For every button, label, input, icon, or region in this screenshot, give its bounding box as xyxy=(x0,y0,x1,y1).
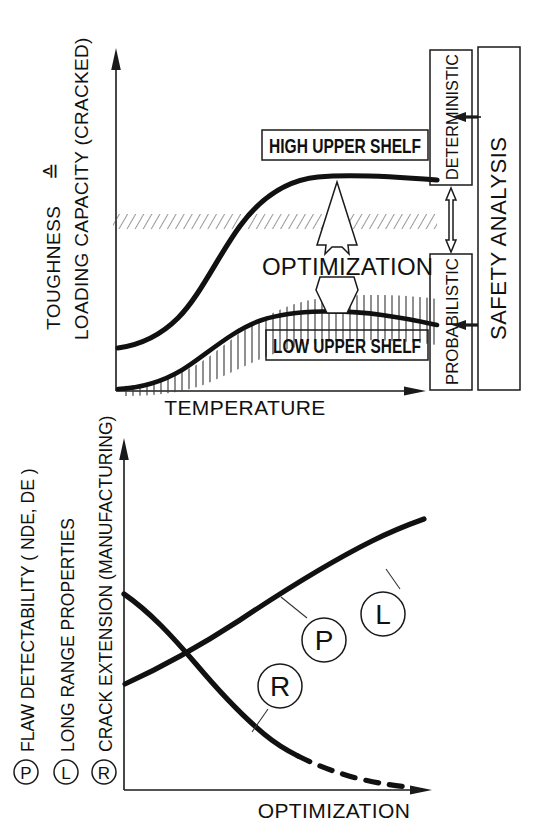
high-upper-shelf-label: HIGH UPPER SHELF xyxy=(262,130,428,160)
bottom-x-axis-arrowhead xyxy=(410,785,432,794)
y-axis-label-line2: LOADING CAPACITY (CRACKED) xyxy=(71,37,92,340)
figure-root: TOUGHNESS ≙ LOADING CAPACITY (CRACKED) xyxy=(0,0,538,837)
top-x-axis-arrowhead xyxy=(404,386,426,395)
curve-marker-L: L xyxy=(361,569,405,636)
bottom-chart-legend: P FLAW DETECTABILITY ( NDE, DE ) L LONG … xyxy=(14,416,116,784)
acceptance-band-hatch xyxy=(113,214,437,229)
legend-item-P: P FLAW DETECTABILITY ( NDE, DE ) xyxy=(14,468,38,784)
high-upper-shelf-text: HIGH UPPER SHELF xyxy=(269,135,421,157)
legend-key-R: R xyxy=(98,764,110,783)
bottom-chart: P FLAW DETECTABILITY ( NDE, DE ) L LONG … xyxy=(14,416,432,822)
legend-text-L: LONG RANGE PROPERTIES xyxy=(58,518,78,752)
marker-label-L: L xyxy=(375,599,391,630)
top-chart: TOUGHNESS ≙ LOADING CAPACITY (CRACKED) xyxy=(41,37,520,419)
acceptance-band xyxy=(113,214,437,229)
probabilistic-label: PROBABILISTIC xyxy=(443,258,462,385)
legend-item-L: L LONG RANGE PROPERTIES xyxy=(54,518,78,784)
legend-item-R: R CRACK EXTENSION (MANUFACTURING) xyxy=(92,416,116,784)
optimization-label: OPTIMIZATION xyxy=(262,253,433,280)
curve-marker-P: P xyxy=(281,597,346,662)
deterministic-probabilistic-link-arrow xyxy=(446,188,456,252)
y-axis-corresponds-symbol: ≙ xyxy=(41,162,64,180)
leader-line-P xyxy=(281,597,307,618)
leader-line-L xyxy=(386,569,400,589)
low-upper-shelf-text: LOW UPPER SHELF xyxy=(273,335,421,357)
low-upper-shelf-label: LOW UPPER SHELF xyxy=(266,330,428,360)
top-chart-x-axis-label: TEMPERATURE xyxy=(164,396,326,419)
curve-marker-R: R xyxy=(252,664,302,732)
optimization-arrow xyxy=(316,182,358,313)
legend-key-P: P xyxy=(20,764,31,783)
marker-label-R: R xyxy=(270,671,290,702)
marker-label-P: P xyxy=(315,625,334,656)
figure-svg: TOUGHNESS ≙ LOADING CAPACITY (CRACKED) xyxy=(0,0,538,837)
safety-analysis-box[interactable]: SAFETY ANALYSIS xyxy=(478,47,520,390)
curve-R-falling-dashed xyxy=(298,756,410,787)
legend-text-P: FLAW DETECTABILITY ( NDE, DE ) xyxy=(18,468,38,752)
legend-key-L: L xyxy=(61,764,70,783)
bottom-y-axis-arrowhead xyxy=(119,438,129,460)
top-chart-y-axis-label: TOUGHNESS ≙ LOADING CAPACITY (CRACKED) xyxy=(41,37,92,340)
y-axis-label-line1: TOUGHNESS xyxy=(43,205,64,330)
legend-text-R: CRACK EXTENSION (MANUFACTURING) xyxy=(96,416,116,752)
bottom-chart-x-axis-label: OPTIMIZATION xyxy=(258,799,411,822)
safety-analysis-label: SAFETY ANALYSIS xyxy=(486,136,511,340)
top-y-axis-arrowhead xyxy=(111,48,121,70)
double-headed-arrow xyxy=(446,188,456,252)
